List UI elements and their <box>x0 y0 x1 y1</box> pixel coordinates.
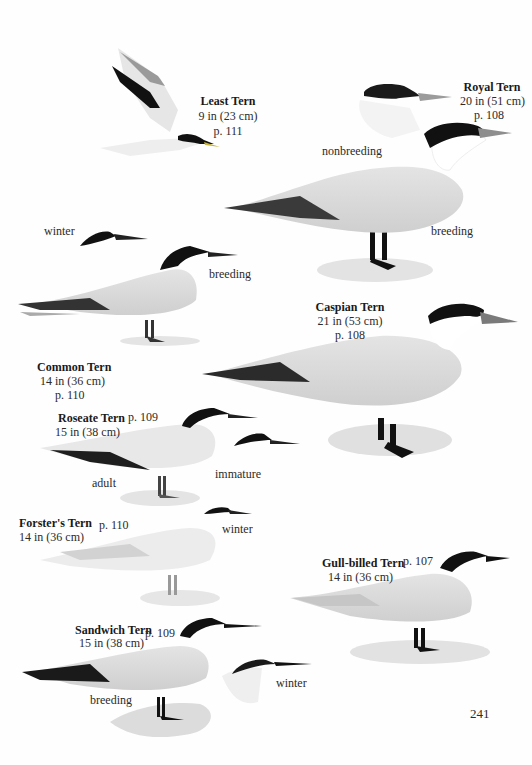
common-tern-breeding-label: breeding <box>209 267 251 281</box>
sandwich-tern-size: 15 in (38 cm) <box>79 636 144 650</box>
roseate-tern-name: Roseate Tern <box>58 411 125 425</box>
royal-tern-breeding-label: breeding <box>431 224 473 238</box>
least-tern-page: p. 111 <box>188 124 268 138</box>
roseate-tern-immature-illustration <box>234 434 300 446</box>
page-number: 241 <box>470 706 490 722</box>
forsters-tern-winter-label: winter <box>222 522 253 536</box>
sandwich-tern-page: p. 109 <box>145 626 175 640</box>
common-tern-winter-label: winter <box>44 224 75 238</box>
gull-billed-tern-page: p. 107 <box>403 554 433 568</box>
forsters-tern-winter-illustration <box>204 507 252 514</box>
sandwich-tern-name: Sandwich Tern <box>75 623 152 637</box>
roseate-tern-page: p. 109 <box>128 410 158 424</box>
forsters-tern-name: Forster's Tern <box>19 516 92 530</box>
roseate-tern-size: 15 in (38 cm) <box>55 425 120 439</box>
common-tern-name: Common Tern <box>37 360 111 374</box>
sandwich-tern-breeding-label: breeding <box>90 693 132 707</box>
caspian-tern-name: Caspian Tern <box>308 300 392 314</box>
common-tern-breeding-illustration <box>18 246 238 346</box>
caspian-tern-size: 21 in (53 cm) <box>308 314 392 328</box>
sandwich-tern-winter-label: winter <box>276 676 307 690</box>
common-tern-size: 14 in (36 cm) <box>40 374 105 388</box>
forsters-tern-size: 14 in (36 cm) <box>19 530 84 544</box>
least-tern-name: Least Tern <box>188 94 268 108</box>
field-guide-page: Least Tern 9 in (23 cm) p. 111 Royal Ter… <box>0 0 532 765</box>
common-tern-page: p. 110 <box>55 388 85 402</box>
gull-billed-tern-size: 14 in (36 cm) <box>328 570 393 584</box>
caspian-tern-page: p. 108 <box>308 328 392 342</box>
royal-tern-page: p. 108 <box>474 108 504 122</box>
forsters-tern-page: p. 110 <box>99 518 129 532</box>
roseate-tern-adult-label: adult <box>92 476 116 490</box>
least-tern-size: 9 in (23 cm) <box>188 109 268 123</box>
roseate-tern-immature-label: immature <box>215 467 261 481</box>
royal-tern-size: 20 in (51 cm) <box>460 94 525 108</box>
royal-tern-name: Royal Tern <box>454 80 530 94</box>
common-tern-winter-illustration <box>80 232 148 246</box>
gull-billed-tern-name: Gull-billed Tern <box>322 556 404 570</box>
royal-tern-nonbreeding-label: nonbreeding <box>322 144 382 158</box>
